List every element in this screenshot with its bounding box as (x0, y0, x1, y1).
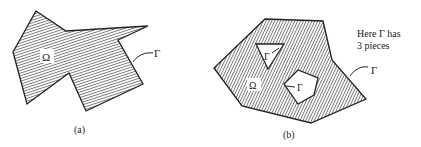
gamma-label-a: Γ (154, 47, 160, 59)
boundary-pointer-a (133, 53, 153, 62)
region-omega-a (13, 11, 148, 111)
gamma-label-triangle: Γ (264, 51, 270, 62)
caption-a: (a) (74, 124, 85, 136)
figure-b: Ω Γ Γ Γ Here Γ has 3 pieces (b) (214, 19, 401, 141)
gamma-label-pentagon: Γ (297, 82, 303, 93)
note-line-1: Here Γ has (357, 28, 401, 39)
domain-boundary-diagram: Ω Γ (a) Ω Γ Γ Γ Here Γ has 3 pieces (b) (0, 0, 421, 147)
omega-label-a: Ω (42, 51, 50, 63)
figure-a: Ω Γ (a) (13, 11, 160, 136)
boundary-pointer-b (350, 67, 368, 76)
gamma-label-b: Γ (371, 64, 377, 76)
region-omega-b (214, 19, 366, 123)
omega-label-b: Ω (249, 80, 256, 91)
caption-b: (b) (283, 129, 295, 141)
note-line-2: 3 pieces (357, 40, 390, 51)
